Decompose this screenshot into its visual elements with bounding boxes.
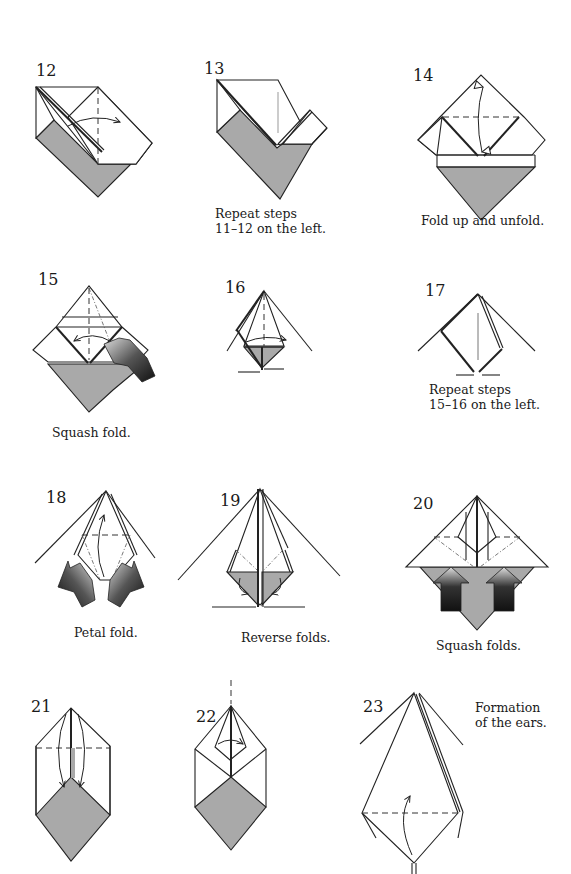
step-14-caption: Fold up and unfold. — [421, 213, 544, 228]
step-22-diagram — [195, 680, 266, 850]
step-17-caption: Repeat steps 15–16 on the left. — [429, 382, 540, 412]
step-23-diagram — [360, 693, 463, 874]
step-17-diagram — [418, 294, 535, 375]
step-19-diagram — [178, 489, 340, 607]
step-12-diagram — [36, 87, 152, 197]
step-16-diagram — [227, 291, 312, 372]
step-number-13: 13 — [204, 59, 224, 78]
step-number-18: 18 — [46, 488, 66, 507]
step-13-caption: Repeat steps 11–12 on the left. — [215, 206, 326, 236]
step-14-diagram — [418, 75, 545, 220]
step-number-21: 21 — [31, 697, 51, 716]
step-21-diagram — [36, 708, 110, 861]
step-18-diagram — [35, 491, 155, 607]
step-number-23: 23 — [363, 697, 383, 716]
step-number-16: 16 — [225, 278, 245, 297]
step-number-20: 20 — [413, 494, 433, 513]
step-23-caption: Formation of the ears. — [475, 700, 547, 730]
step-19-caption: Reverse folds. — [241, 630, 331, 645]
step-15-caption: Squash fold. — [52, 425, 131, 440]
step-number-12: 12 — [36, 61, 56, 80]
step-18-caption: Petal fold. — [74, 625, 138, 640]
step-15-diagram — [33, 286, 155, 412]
step-number-15: 15 — [38, 270, 58, 289]
step-13-diagram — [217, 80, 327, 199]
step-20-diagram — [406, 496, 548, 630]
step-number-22: 22 — [196, 707, 216, 726]
step-number-14: 14 — [413, 66, 433, 85]
step-20-caption: Squash folds. — [436, 638, 521, 653]
step-number-17: 17 — [425, 281, 445, 300]
step-number-19: 19 — [220, 491, 240, 510]
